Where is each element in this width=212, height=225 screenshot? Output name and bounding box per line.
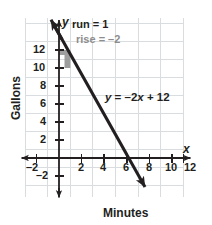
- rise-annotation-label: rise = –2: [76, 34, 120, 45]
- equation-label: y = –2x + 12: [105, 92, 170, 104]
- x-tick-label-6: 6: [123, 162, 129, 173]
- run-annotation-label: run = 1: [72, 19, 108, 30]
- y-axis-title: Gallons: [10, 76, 22, 120]
- x-tick-label-2: 2: [78, 162, 84, 173]
- y-tick-label-8: 8: [40, 80, 46, 91]
- x-tick-label-minus-2: –2: [26, 162, 38, 173]
- x-tick-label-8: 8: [146, 162, 152, 173]
- y-tick-label-2: 2: [40, 134, 46, 145]
- x-axis-variable-label: x: [183, 143, 190, 155]
- equation-operator: = –2: [111, 91, 137, 103]
- equation-constant: + 12: [144, 91, 170, 103]
- graph-figure: 12 10 8 6 4 2 –2 –2 2 4 6 8 10 12 y x Ga…: [0, 0, 212, 225]
- y-tick-label-10: 10: [33, 62, 45, 73]
- x-tick-label-12: 12: [184, 162, 196, 173]
- y-tick-label-4: 4: [40, 116, 46, 127]
- y-tick-label-6: 6: [40, 98, 46, 109]
- x-tick-label-4: 4: [100, 162, 106, 173]
- y-tick-label-12: 12: [33, 44, 45, 55]
- x-tick-label-10: 10: [165, 162, 177, 173]
- y-axis-variable-label: y: [62, 16, 69, 28]
- x-axis-title: Minutes: [103, 207, 148, 219]
